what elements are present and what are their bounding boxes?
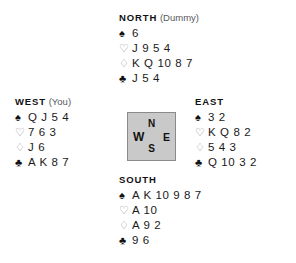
hand-north-seat: NORTH <box>119 12 157 23</box>
hand-east-hearts-row: ♡ K Q 8 2 <box>195 125 257 140</box>
hand-west-header: WEST (You) <box>15 96 71 108</box>
club-icon: ♣ <box>119 71 132 86</box>
spade-icon: ♠ <box>15 110 28 125</box>
spade-icon: ♠ <box>195 110 208 125</box>
hand-east-spades-row: ♠ 3 2 <box>195 110 257 125</box>
hand-north: NORTH (Dummy) ♠ 6 ♡ J 9 5 4 ♢ K Q 10 8 7… <box>119 12 199 86</box>
heart-icon: ♡ <box>119 203 132 218</box>
hand-south-diamonds: A 9 2 <box>132 218 161 233</box>
hand-north-diamonds-row: ♢ K Q 10 8 7 <box>119 56 199 71</box>
hand-south-hearts: A 10 <box>132 203 157 218</box>
hand-west-seat: WEST <box>15 96 46 107</box>
diamond-icon: ♢ <box>195 140 208 155</box>
hand-south-header: SOUTH <box>119 174 202 186</box>
hand-east-diamonds: 5 4 3 <box>208 140 237 155</box>
hand-east-header: EAST <box>195 96 257 108</box>
heart-icon: ♡ <box>15 125 28 140</box>
hand-west-spades: Q J 5 4 <box>28 110 69 125</box>
hand-north-role: (Dummy) <box>160 12 199 23</box>
diamond-icon: ♢ <box>119 56 132 71</box>
hand-west-spades-row: ♠ Q J 5 4 <box>15 110 71 125</box>
hand-south-seat: SOUTH <box>119 174 157 185</box>
hand-south-spades: A K 10 9 8 7 <box>132 188 202 203</box>
hand-north-hearts-row: ♡ J 9 5 4 <box>119 41 199 56</box>
hand-south-hearts-row: ♡ A 10 <box>119 203 202 218</box>
hand-west-clubs: A K 8 7 <box>28 155 69 170</box>
spade-icon: ♠ <box>119 26 132 41</box>
hand-west: WEST (You) ♠ Q J 5 4 ♡ 7 6 3 ♢ J 6 ♣ A K… <box>15 96 71 170</box>
hand-south-clubs: 9 6 <box>132 233 150 248</box>
hand-west-clubs-row: ♣ A K 8 7 <box>15 155 71 170</box>
hand-east: EAST ♠ 3 2 ♡ K Q 8 2 ♢ 5 4 3 ♣ Q 10 3 2 <box>195 96 257 170</box>
heart-icon: ♡ <box>119 41 132 56</box>
hand-west-diamonds: J 6 <box>28 140 45 155</box>
hand-north-hearts: J 9 5 4 <box>132 41 171 56</box>
hand-east-clubs: Q 10 3 2 <box>208 155 257 170</box>
hand-east-clubs-row: ♣ Q 10 3 2 <box>195 155 257 170</box>
hand-east-spades: 3 2 <box>208 110 226 125</box>
hand-south: SOUTH ♠ A K 10 9 8 7 ♡ A 10 ♢ A 9 2 ♣ 9 … <box>119 174 202 248</box>
hand-east-diamonds-row: ♢ 5 4 3 <box>195 140 257 155</box>
diamond-icon: ♢ <box>15 140 28 155</box>
hand-north-spades: 6 <box>132 26 139 41</box>
hand-north-diamonds: K Q 10 8 7 <box>132 56 193 71</box>
compass-east-label: E <box>163 132 170 143</box>
hand-west-role: (You) <box>49 96 71 107</box>
compass-south-label: S <box>128 144 175 154</box>
club-icon: ♣ <box>15 155 28 170</box>
hand-west-diamonds-row: ♢ J 6 <box>15 140 71 155</box>
hand-south-clubs-row: ♣ 9 6 <box>119 233 202 248</box>
hand-south-spades-row: ♠ A K 10 9 8 7 <box>119 188 202 203</box>
club-icon: ♣ <box>119 233 132 248</box>
hand-west-hearts-row: ♡ 7 6 3 <box>15 125 71 140</box>
hand-west-hearts: 7 6 3 <box>28 125 57 140</box>
hand-north-clubs: J 5 4 <box>132 71 160 86</box>
club-icon: ♣ <box>195 155 208 170</box>
spade-icon: ♠ <box>119 188 132 203</box>
diamond-icon: ♢ <box>119 218 132 233</box>
compass-box: N W E S <box>127 112 176 161</box>
hand-north-header: NORTH (Dummy) <box>119 12 199 24</box>
hand-east-hearts: K Q 8 2 <box>208 125 251 140</box>
compass-north-label: N <box>128 119 175 129</box>
hand-east-seat: EAST <box>195 96 224 107</box>
hand-south-diamonds-row: ♢ A 9 2 <box>119 218 202 233</box>
heart-icon: ♡ <box>195 125 208 140</box>
compass-west-label: W <box>133 131 144 143</box>
hand-north-spades-row: ♠ 6 <box>119 26 199 41</box>
bridge-deal-diagram: NORTH (Dummy) ♠ 6 ♡ J 9 5 4 ♢ K Q 10 8 7… <box>0 0 296 263</box>
hand-north-clubs-row: ♣ J 5 4 <box>119 71 199 86</box>
